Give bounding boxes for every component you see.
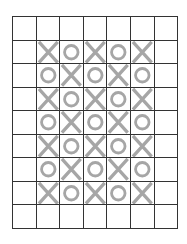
x-mark-icon xyxy=(37,182,60,205)
board-cell[interactable] xyxy=(60,41,84,65)
board-cell[interactable] xyxy=(84,64,108,88)
board-cell[interactable] xyxy=(107,158,131,182)
x-mark-icon xyxy=(84,135,107,158)
board-cell[interactable] xyxy=(155,64,179,88)
board-cell[interactable] xyxy=(13,88,37,112)
board-cell[interactable] xyxy=(60,135,84,159)
board-cell[interactable] xyxy=(155,182,179,206)
x-mark-icon xyxy=(84,41,107,64)
board-cell[interactable] xyxy=(131,17,155,41)
board-cell[interactable] xyxy=(155,205,179,229)
board-cell[interactable] xyxy=(131,158,155,182)
board-cell[interactable] xyxy=(37,205,61,229)
o-mark-icon xyxy=(84,64,107,87)
board-cell[interactable] xyxy=(37,182,61,206)
board-cell[interactable] xyxy=(84,182,108,206)
board-cell[interactable] xyxy=(131,205,155,229)
board-cell[interactable] xyxy=(37,41,61,65)
o-mark-icon xyxy=(131,111,154,134)
x-mark-icon xyxy=(84,182,107,205)
x-mark-icon xyxy=(107,111,130,134)
board-cell[interactable] xyxy=(84,41,108,65)
board-cell[interactable] xyxy=(37,64,61,88)
board-cell[interactable] xyxy=(13,111,37,135)
board-cell[interactable] xyxy=(37,88,61,112)
board-cell[interactable] xyxy=(13,158,37,182)
board-cell[interactable] xyxy=(60,158,84,182)
board-cell[interactable] xyxy=(131,182,155,206)
x-mark-icon xyxy=(60,158,83,181)
x-mark-icon xyxy=(107,64,130,87)
board-cell[interactable] xyxy=(84,205,108,229)
o-mark-icon xyxy=(60,41,83,64)
o-mark-icon xyxy=(37,111,60,134)
o-mark-icon xyxy=(60,182,83,205)
o-mark-icon xyxy=(107,135,130,158)
x-mark-icon xyxy=(131,135,154,158)
x-mark-icon xyxy=(131,88,154,111)
o-mark-icon xyxy=(107,88,130,111)
board-cell[interactable] xyxy=(107,205,131,229)
board-cell[interactable] xyxy=(107,41,131,65)
board-cell[interactable] xyxy=(155,88,179,112)
x-mark-icon xyxy=(84,88,107,111)
board-cell[interactable] xyxy=(155,41,179,65)
board-cell[interactable] xyxy=(131,88,155,112)
o-mark-icon xyxy=(37,158,60,181)
board-cell[interactable] xyxy=(107,88,131,112)
board-cell[interactable] xyxy=(84,135,108,159)
board-cell[interactable] xyxy=(84,88,108,112)
board-cell[interactable] xyxy=(84,111,108,135)
board-cell[interactable] xyxy=(60,88,84,112)
board-cell[interactable] xyxy=(155,111,179,135)
board-cell[interactable] xyxy=(155,158,179,182)
board-cell[interactable] xyxy=(37,135,61,159)
board-cell[interactable] xyxy=(13,182,37,206)
board-cell[interactable] xyxy=(60,111,84,135)
board-cell[interactable] xyxy=(107,135,131,159)
board-cell[interactable] xyxy=(131,111,155,135)
o-mark-icon xyxy=(60,88,83,111)
board-cell[interactable] xyxy=(13,205,37,229)
board-cell[interactable] xyxy=(84,17,108,41)
board-cell[interactable] xyxy=(107,17,131,41)
o-mark-icon xyxy=(107,182,130,205)
board-cell[interactable] xyxy=(155,135,179,159)
o-mark-icon xyxy=(84,158,107,181)
board-cell[interactable] xyxy=(60,17,84,41)
board-cell[interactable] xyxy=(131,64,155,88)
x-mark-icon xyxy=(37,88,60,111)
board-cell[interactable] xyxy=(60,182,84,206)
board-cell[interactable] xyxy=(13,17,37,41)
game-board xyxy=(12,16,178,229)
board-cell[interactable] xyxy=(84,158,108,182)
o-mark-icon xyxy=(131,158,154,181)
board-cell[interactable] xyxy=(13,64,37,88)
x-mark-icon xyxy=(131,182,154,205)
x-mark-icon xyxy=(60,64,83,87)
board-cell[interactable] xyxy=(107,64,131,88)
board-cell[interactable] xyxy=(107,182,131,206)
x-mark-icon xyxy=(37,41,60,64)
o-mark-icon xyxy=(60,135,83,158)
o-mark-icon xyxy=(84,111,107,134)
board-cell[interactable] xyxy=(37,158,61,182)
o-mark-icon xyxy=(107,41,130,64)
board-cell[interactable] xyxy=(107,111,131,135)
x-mark-icon xyxy=(131,41,154,64)
o-mark-icon xyxy=(37,64,60,87)
board-cell[interactable] xyxy=(60,205,84,229)
board-cell[interactable] xyxy=(13,135,37,159)
x-mark-icon xyxy=(107,158,130,181)
board-cell[interactable] xyxy=(37,111,61,135)
x-mark-icon xyxy=(60,111,83,134)
board-cell[interactable] xyxy=(155,17,179,41)
board-cell[interactable] xyxy=(131,135,155,159)
board-cell[interactable] xyxy=(13,41,37,65)
o-mark-icon xyxy=(131,64,154,87)
board-cell[interactable] xyxy=(131,41,155,65)
board-cell[interactable] xyxy=(60,64,84,88)
x-mark-icon xyxy=(37,135,60,158)
board-cell[interactable] xyxy=(37,17,61,41)
